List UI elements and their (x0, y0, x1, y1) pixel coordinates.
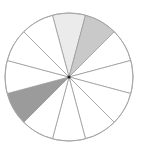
center-dot (67, 75, 70, 78)
sector-wheel-diagram (0, 0, 141, 149)
